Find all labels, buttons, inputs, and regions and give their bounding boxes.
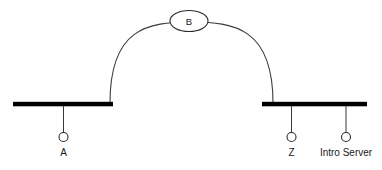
left-bus-bar xyxy=(13,102,113,107)
node-z-circle[interactable] xyxy=(287,133,296,142)
node-a-circle[interactable] xyxy=(59,133,68,142)
node-z-label: Z xyxy=(288,147,294,158)
node-a-label: A xyxy=(60,147,67,158)
inter-bus-arc xyxy=(110,22,273,103)
node-intro-server-circle[interactable] xyxy=(342,133,351,142)
topology-canvas: B A Z Intro Server xyxy=(0,0,382,170)
cloud-node-b-group[interactable]: B xyxy=(170,11,208,32)
right-bus-bar xyxy=(262,102,367,107)
node-intro-server-label: Intro Server xyxy=(320,147,373,158)
cloud-node-b-label: B xyxy=(186,16,192,27)
node-a-group[interactable]: A xyxy=(59,106,68,158)
node-z-group[interactable]: Z xyxy=(287,106,296,158)
network-topology-diagram: B A Z Intro Server xyxy=(0,0,382,170)
node-intro-server-group[interactable]: Intro Server xyxy=(320,106,373,158)
